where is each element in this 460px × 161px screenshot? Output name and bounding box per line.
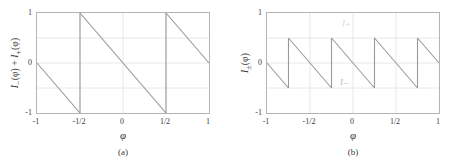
panel-a: I−(φ) + I+(φ) 1 0 -1 xyxy=(0,0,230,161)
panel-a-x-axis-label: φ xyxy=(36,130,210,141)
x-tick-label: -1 xyxy=(254,118,278,126)
x-tick-label: -1 xyxy=(24,118,48,126)
y-tick-label: -1 xyxy=(248,109,262,117)
panel-b: I±(φ) 1 0 -1 xyxy=(230,0,460,161)
figure-container: I−(φ) + I+(φ) 1 0 -1 xyxy=(0,0,460,161)
panel-b-caption: (b) xyxy=(266,148,440,157)
panel-b-x-axis-label: φ xyxy=(266,130,440,141)
panel-b-chart-svg xyxy=(267,13,439,113)
y-tick-label: 0 xyxy=(18,59,32,67)
panel-a-chart-svg xyxy=(37,13,209,113)
y-tick-label: 1 xyxy=(18,9,32,17)
x-tick-label: 1 xyxy=(196,118,220,126)
x-tick-label: -1/2 xyxy=(67,118,91,126)
annotation-i-minus: I₋ xyxy=(340,78,348,87)
y-tick-label: 0 xyxy=(248,59,262,67)
panel-a-plot-area xyxy=(36,12,210,114)
x-tick-label: 0 xyxy=(110,118,134,126)
x-tick-label: -1/2 xyxy=(297,118,321,126)
x-tick-label: 1 xyxy=(426,118,450,126)
y-tick-label: -1 xyxy=(18,109,32,117)
annotation-i-plus: I₊ xyxy=(342,19,350,28)
panel-b-plot-area xyxy=(266,12,440,114)
panel-b-y-ticks: 1 0 -1 xyxy=(246,0,262,161)
x-tick-label: 1/2 xyxy=(153,118,177,126)
x-tick-label: 1/2 xyxy=(383,118,407,126)
panel-a-caption: (a) xyxy=(36,148,210,157)
x-tick-label: 0 xyxy=(340,118,364,126)
panel-a-y-ticks: 1 0 -1 xyxy=(16,0,32,161)
y-tick-label: 1 xyxy=(248,9,262,17)
